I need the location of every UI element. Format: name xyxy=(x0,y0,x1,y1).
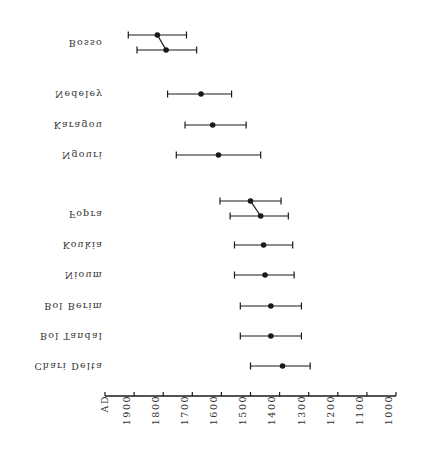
date-point xyxy=(268,303,274,309)
tick-label-1000: 1000 xyxy=(384,395,394,435)
site-label-ngouri: Ngouri xyxy=(62,150,103,160)
plot-area xyxy=(0,0,422,449)
error-bar-group-fopra xyxy=(220,198,288,220)
tick-label-1800: 1800 xyxy=(151,395,161,435)
error-bar-group-koukia xyxy=(234,242,292,249)
error-bar-group-bol-berim xyxy=(240,303,301,310)
radiocarbon-dates-chart: Bosso Nedeley Karagou Ngouri Fopra Kouki… xyxy=(0,0,422,449)
error-bar-group-bosso xyxy=(128,32,196,54)
site-label-karagou: Karagou xyxy=(54,120,103,130)
site-label-bosso: Bosso xyxy=(69,38,103,48)
date-point xyxy=(262,272,268,278)
tick-label-1300: 1300 xyxy=(297,395,307,435)
site-label-bol-tandal: Bol Tandal xyxy=(40,331,103,341)
date-point xyxy=(198,91,204,97)
error-bar-group-chari-delta xyxy=(251,363,311,370)
date-point xyxy=(268,333,274,339)
error-bar-group-karagou xyxy=(185,122,246,129)
tick-label-1700: 1700 xyxy=(180,395,190,435)
tick-label-1500: 1500 xyxy=(238,395,248,435)
date-point xyxy=(261,242,267,248)
date-point xyxy=(216,152,222,158)
site-label-chari-delta: Chari Delta xyxy=(34,361,103,371)
date-point xyxy=(210,122,216,128)
tick-label-1900: 1900 xyxy=(122,395,132,435)
date-point xyxy=(258,213,264,219)
axis-unit-label: AD xyxy=(100,395,110,435)
error-bar-group-bol-tandal xyxy=(240,333,301,340)
error-bars xyxy=(128,32,310,370)
date-point xyxy=(280,363,286,369)
date-point xyxy=(248,198,254,204)
error-bar-group-nedeley xyxy=(168,91,232,98)
site-label-bol-berim: Bol Berim xyxy=(44,301,103,311)
site-label-koukia: Koukia xyxy=(63,240,103,250)
error-bar-group-nioum xyxy=(234,272,294,279)
date-point xyxy=(155,32,161,38)
tick-label-1100: 1100 xyxy=(355,395,365,435)
site-label-nioum: Nioum xyxy=(65,270,103,280)
date-point xyxy=(163,47,169,53)
tick-label-1200: 1200 xyxy=(326,395,336,435)
error-bar-group-ngouri xyxy=(176,152,260,159)
tick-label-1600: 1600 xyxy=(209,395,219,435)
x-axis xyxy=(105,392,396,396)
site-label-fopra: Fopra xyxy=(69,209,103,219)
tick-label-1400: 1400 xyxy=(267,395,277,435)
site-label-nedeley: Nedeley xyxy=(55,89,103,99)
